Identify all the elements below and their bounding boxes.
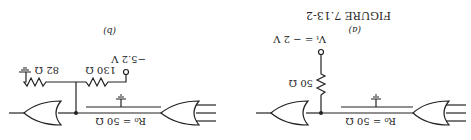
resistor-label-82: 82 Ω — [35, 65, 59, 76]
resistor-label-130: 130 Ω — [85, 65, 116, 76]
resistor-label-a: 50 Ω — [289, 78, 313, 89]
or-gate-driver-b — [161, 101, 216, 125]
terminal-vee — [124, 70, 129, 75]
resistor-130-b — [76, 75, 126, 86]
or-gate-receiver-a — [256, 101, 321, 125]
resistor-50-a — [317, 55, 325, 113]
ground-icon-b — [116, 95, 126, 107]
panel-label-b: (b) — [103, 26, 116, 36]
panel-label-a: (a) — [348, 25, 361, 35]
supply-label-a: Vₜ = − 2 V — [272, 34, 327, 45]
or-gate-driver-a — [413, 101, 466, 125]
or-gate-receiver-b — [9, 101, 76, 125]
line-impedance-b: R₀ = 50 Ω — [96, 116, 146, 127]
figure-rotated: FIGURE 7.13-2 R₀ = 50 Ω 50 Ω Vₜ = — [0, 0, 471, 140]
panel-b: R₀ = 50 Ω 130 Ω 82 Ω −5.2 V (b) — [9, 26, 216, 127]
panel-a: R₀ = 50 Ω 50 Ω Vₜ = − 2 V (a) — [256, 25, 466, 127]
ground-icon-b2 — [19, 68, 31, 72]
supply-label-b: −5.2 V — [111, 54, 146, 65]
figure-canvas: FIGURE 7.13-2 R₀ = 50 Ω 50 Ω Vₜ = — [0, 0, 471, 140]
ground-icon-a — [371, 95, 381, 107]
line-impedance-a: R₀ = 50 Ω — [346, 116, 396, 127]
figure-caption: FIGURE 7.13-2 — [306, 9, 391, 22]
terminal-vt — [319, 50, 324, 55]
